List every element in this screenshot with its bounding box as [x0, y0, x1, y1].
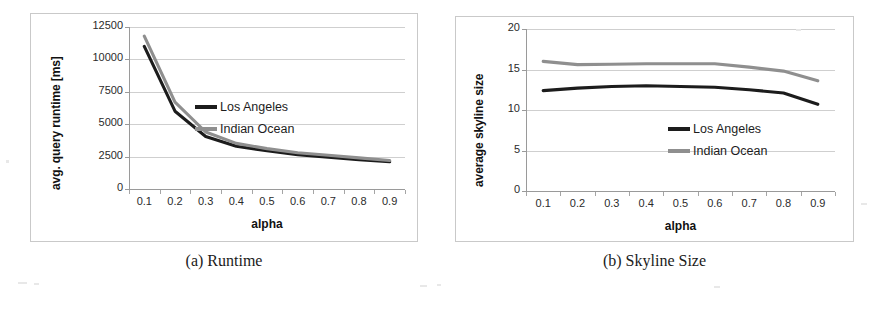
legend-swatch-icon: [195, 105, 217, 109]
legend-entry-indian-ocean[interactable]: Indian Ocean: [668, 140, 767, 162]
series-line-indian-ocean: [543, 61, 818, 80]
scan-speckle: [6, 160, 9, 163]
scan-speckle: [714, 286, 720, 288]
legend-label: Los Angeles: [693, 122, 761, 136]
legend-swatch-icon: [668, 127, 690, 131]
caption-runtime: (a) Runtime: [30, 252, 418, 270]
scan-speckle: [796, 29, 801, 31]
scan-speckle: [34, 283, 39, 285]
chart-panel-runtime: avg. query runtime [ms]02500500075001000…: [30, 13, 418, 242]
figure-container: avg. query runtime [ms]02500500075001000…: [0, 0, 886, 317]
legend-label: Indian Ocean: [693, 144, 767, 158]
legend-label: Indian Ocean: [220, 122, 294, 136]
legend-label: Los Angeles: [220, 100, 288, 114]
legend-entry-los-angeles[interactable]: Los Angeles: [195, 96, 294, 118]
scan-speckle: [420, 285, 427, 287]
scan-speckle: [18, 282, 27, 284]
legend-entry-los-angeles[interactable]: Los Angeles: [668, 118, 767, 140]
legend-swatch-icon: [668, 149, 690, 153]
series-line-los-angeles: [543, 86, 818, 105]
legend-swatch-icon: [195, 127, 217, 131]
legend-entry-indian-ocean[interactable]: Indian Ocean: [195, 118, 294, 140]
scan-speckle: [437, 284, 441, 286]
series-plot: [456, 17, 855, 243]
scan-speckle: [861, 203, 867, 205]
chart-panel-skyline-size: average skyline size051015200.10.20.30.4…: [455, 16, 854, 242]
caption-skyline-size: (b) Skyline Size: [455, 252, 854, 270]
chart-legend: Los AngelesIndian Ocean: [668, 118, 767, 162]
chart-legend: Los AngelesIndian Ocean: [195, 96, 294, 140]
